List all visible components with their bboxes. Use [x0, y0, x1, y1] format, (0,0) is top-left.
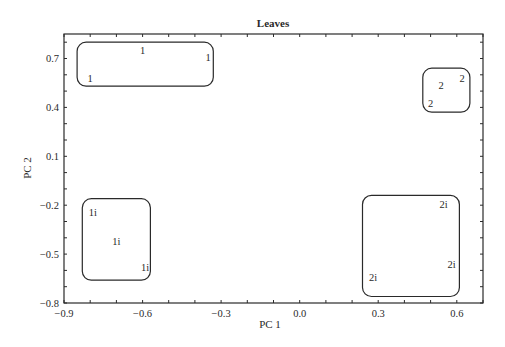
- point-label-1: 1: [140, 45, 145, 56]
- chart-title: Leaves: [257, 17, 290, 29]
- x-tick-label: −0.3: [212, 308, 231, 319]
- x-tick-label: 0.6: [450, 308, 463, 319]
- point-label-1i: 1i: [112, 236, 120, 247]
- point-label-2: 2: [459, 73, 464, 84]
- point-label-1i: 1i: [89, 207, 97, 218]
- plot-frame: [64, 34, 483, 303]
- plot-border: [64, 34, 483, 303]
- point-label-1: 1: [88, 73, 93, 84]
- x-tick-label: 0.3: [372, 308, 385, 319]
- pca-scatter-chart: Leaves −0.9−0.6−0.30.00.30.6 −0.8−0.5−0.…: [0, 0, 505, 347]
- y-tick-label: 0.1: [46, 151, 59, 162]
- point-label-2i: 2i: [440, 199, 448, 210]
- point-label-2: 2: [428, 98, 433, 109]
- y-tick-label: −0.5: [40, 249, 59, 260]
- x-tick-label: 0.0: [293, 308, 306, 319]
- y-axis-tick-labels: −0.8−0.5−0.20.10.40.7: [40, 53, 60, 309]
- point-label-1i: 1i: [141, 262, 149, 273]
- group-enclosures: [77, 42, 470, 296]
- axis-ticks: [64, 34, 483, 303]
- y-tick-label: 0.7: [46, 53, 59, 64]
- point-label-1: 1: [205, 52, 210, 63]
- y-tick-label: −0.8: [40, 298, 59, 309]
- y-tick-label: −0.2: [40, 200, 59, 211]
- x-tick-label: −0.9: [54, 308, 73, 319]
- point-label-2i: 2i: [448, 259, 456, 270]
- point-label-2: 2: [438, 80, 443, 91]
- point-label-2i: 2i: [369, 272, 377, 283]
- x-tick-label: −0.6: [133, 308, 152, 319]
- x-axis-label: PC 1: [259, 318, 281, 330]
- y-axis-label: PC 2: [21, 157, 33, 179]
- data-points: 1112221i1i1i2i2i2i: [88, 45, 465, 283]
- y-tick-label: 0.4: [46, 102, 60, 113]
